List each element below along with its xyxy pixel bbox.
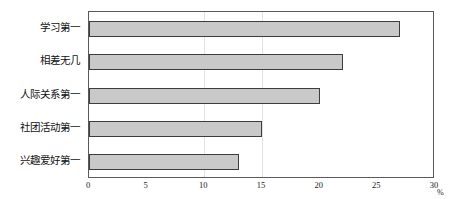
x-tick-label: 5: [144, 180, 148, 191]
bar: [89, 88, 320, 104]
bar: [89, 21, 400, 37]
category-label: 学习第一: [40, 20, 80, 36]
x-tick-label: 10: [199, 180, 208, 191]
bar: [89, 154, 239, 170]
category-label: 社团活动第一: [20, 120, 80, 136]
category-label: 相差无几: [40, 53, 80, 69]
category-label: 兴趣爱好第一: [20, 153, 80, 169]
category-label: 人际关系第一: [20, 87, 80, 103]
x-tick-label: 0: [86, 180, 90, 191]
x-tick-label: 15: [257, 180, 266, 191]
bar: [89, 121, 262, 137]
bar-chart: 学习第一相差无几人际关系第一社团活动第一兴趣爱好第一 051015202530 …: [0, 0, 455, 199]
plot-area: [88, 11, 434, 178]
x-tick-label: 25: [372, 180, 381, 191]
x-axis-unit-label: %: [437, 188, 444, 197]
x-tick-label: 20: [314, 180, 323, 191]
category-axis-labels: 学习第一相差无几人际关系第一社团活动第一兴趣爱好第一: [0, 11, 84, 178]
x-axis-tick-labels: 051015202530: [88, 180, 434, 194]
bar: [89, 54, 343, 70]
